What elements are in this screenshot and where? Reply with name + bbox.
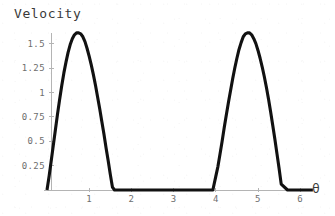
velocity-plot: Velocity 123456 θ 0.250.50.7511.251.5 <box>0 0 335 216</box>
y-tick-label: 1.25 <box>22 63 45 73</box>
x-tick-label: 2 <box>128 194 134 204</box>
x-tick-label: 5 <box>255 194 261 204</box>
x-tick-label: 1 <box>86 194 92 204</box>
velocity-curve <box>47 33 313 190</box>
x-tick-label: 4 <box>213 194 219 204</box>
y-tick-labels: 0.250.50.7511.251.5 <box>22 39 45 171</box>
y-tick-label: 1.5 <box>28 39 45 49</box>
x-tick-labels: 123456 <box>86 194 303 204</box>
x-tick-label: 6 <box>297 194 303 204</box>
x-tick-label: 3 <box>171 194 177 204</box>
y-tick-label: 0.75 <box>22 112 45 122</box>
x-axis: 123456 θ <box>44 182 320 204</box>
y-tick-label: 0.5 <box>28 136 45 146</box>
chart-canvas: 123456 θ 0.250.50.7511.251.5 <box>0 0 335 216</box>
y-tick-label: 0.25 <box>22 161 45 171</box>
x-axis-label-theta: θ <box>312 182 319 196</box>
y-tick-label: 1 <box>39 88 45 98</box>
